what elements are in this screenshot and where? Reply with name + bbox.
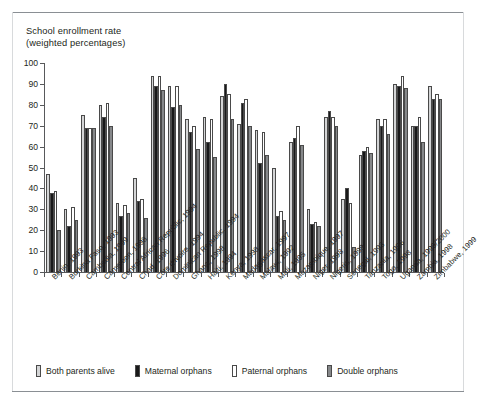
frame-left-rule xyxy=(12,12,13,392)
y-tick-mark xyxy=(40,105,44,106)
legend-swatch xyxy=(135,365,140,377)
chart-page: School enrollment rate (weighted percent… xyxy=(0,0,477,405)
y-tick-label: 100 xyxy=(12,58,38,68)
legend-item: Double orphans xyxy=(327,365,398,377)
y-tick-label: 60 xyxy=(12,142,38,152)
bar-group xyxy=(62,63,79,272)
bar-group xyxy=(357,63,374,272)
chart-legend: Both parents aliveMaternal orphansPatern… xyxy=(36,365,418,377)
y-tick-mark xyxy=(40,230,44,231)
legend-swatch xyxy=(36,365,41,377)
frame-bottom-rule xyxy=(12,391,464,392)
y-tick-mark xyxy=(40,147,44,148)
y-tick-mark xyxy=(40,168,44,169)
bar-group xyxy=(288,63,305,272)
bar-group xyxy=(236,63,253,272)
legend-label: Paternal orphans xyxy=(242,366,307,376)
legend-item: Maternal orphans xyxy=(135,365,212,377)
legend-label: Maternal orphans xyxy=(145,366,212,376)
legend-label: Double orphans xyxy=(337,366,398,376)
bar-group xyxy=(45,63,62,272)
y-tick-mark xyxy=(40,188,44,189)
legend-label: Both parents alive xyxy=(46,366,115,376)
y-tick-label: 80 xyxy=(12,100,38,110)
bar-group xyxy=(375,63,392,272)
bar-group xyxy=(218,63,235,272)
y-tick-label: 90 xyxy=(12,79,38,89)
legend-swatch xyxy=(232,365,237,377)
y-tick-mark xyxy=(40,126,44,127)
y-tick-label: 30 xyxy=(12,204,38,214)
y-tick-label: 0 xyxy=(12,267,38,277)
y-tick-label: 10 xyxy=(12,246,38,256)
chart-title: School enrollment rate (weighted percent… xyxy=(26,25,125,50)
legend-swatch xyxy=(327,365,332,377)
frame-right-rule xyxy=(463,12,464,392)
legend-item: Paternal orphans xyxy=(232,365,307,377)
bar-group xyxy=(409,63,426,272)
y-tick-label: 70 xyxy=(12,121,38,131)
bar-group xyxy=(305,63,322,272)
y-tick-label: 50 xyxy=(12,163,38,173)
bar-group xyxy=(166,63,183,272)
y-tick-label: 20 xyxy=(12,225,38,235)
y-tick-mark xyxy=(40,63,44,64)
legend-item: Both parents alive xyxy=(36,365,115,377)
x-axis-labels: Benin, 1993Burkina Faso, 1993Cambodia, 1… xyxy=(44,275,454,355)
y-tick-mark xyxy=(40,209,44,210)
bar-group xyxy=(253,63,270,272)
y-tick-label: 40 xyxy=(12,183,38,193)
y-tick-mark xyxy=(40,251,44,252)
bar-group xyxy=(340,63,357,272)
frame-top-rule xyxy=(12,12,464,13)
y-tick-mark xyxy=(40,84,44,85)
bar-group xyxy=(80,63,97,272)
